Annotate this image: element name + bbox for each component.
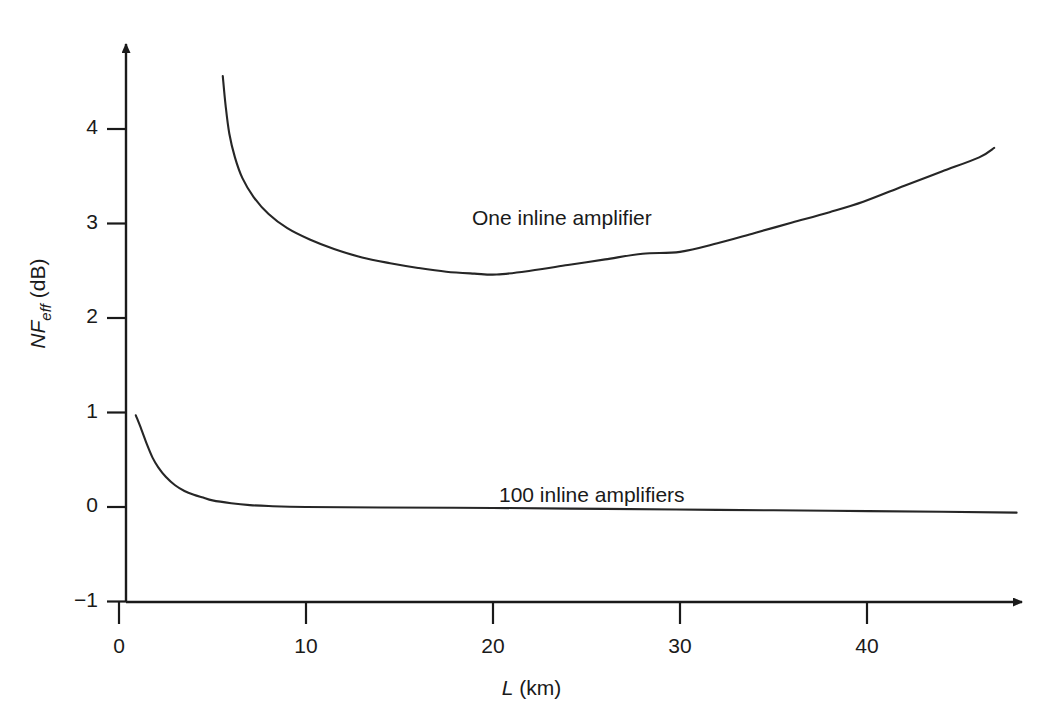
y-axis-title-symbol: NF — [26, 321, 49, 349]
x-axis-title-symbol: L — [502, 676, 514, 699]
x-tick-label: 40 — [827, 634, 907, 658]
x-tick-label: 0 — [79, 634, 159, 658]
y-tick-label: 0 — [40, 493, 98, 517]
plot-area — [0, 0, 1063, 725]
x-tick-label: 20 — [453, 634, 533, 658]
axis-lines — [126, 44, 1022, 602]
y-axis-title: NFeff (dB) — [26, 204, 53, 404]
x-axis-ticks — [119, 602, 867, 624]
x-tick-label: 30 — [640, 634, 720, 658]
y-axis-title-subscript: eff — [37, 304, 54, 321]
annotation-one-inline-amplifier: One inline amplifier — [472, 206, 652, 230]
x-axis-title-unit: (km) — [513, 676, 561, 699]
annotation-100-inline-amplifiers: 100 inline amplifiers — [499, 483, 685, 507]
y-axis-ticks — [107, 129, 126, 602]
y-tick-label: 4 — [40, 115, 98, 139]
x-axis-title: L (km) — [0, 676, 1063, 700]
x-tick-label: 10 — [266, 634, 346, 658]
y-tick-label: −1 — [40, 588, 98, 612]
y-axis-title-unit: (dB) — [26, 259, 49, 305]
curve-one-inline-amplifier — [223, 76, 994, 275]
chart-figure: 43210−1 010203040 L (km) NFeff (dB) One … — [0, 0, 1063, 725]
